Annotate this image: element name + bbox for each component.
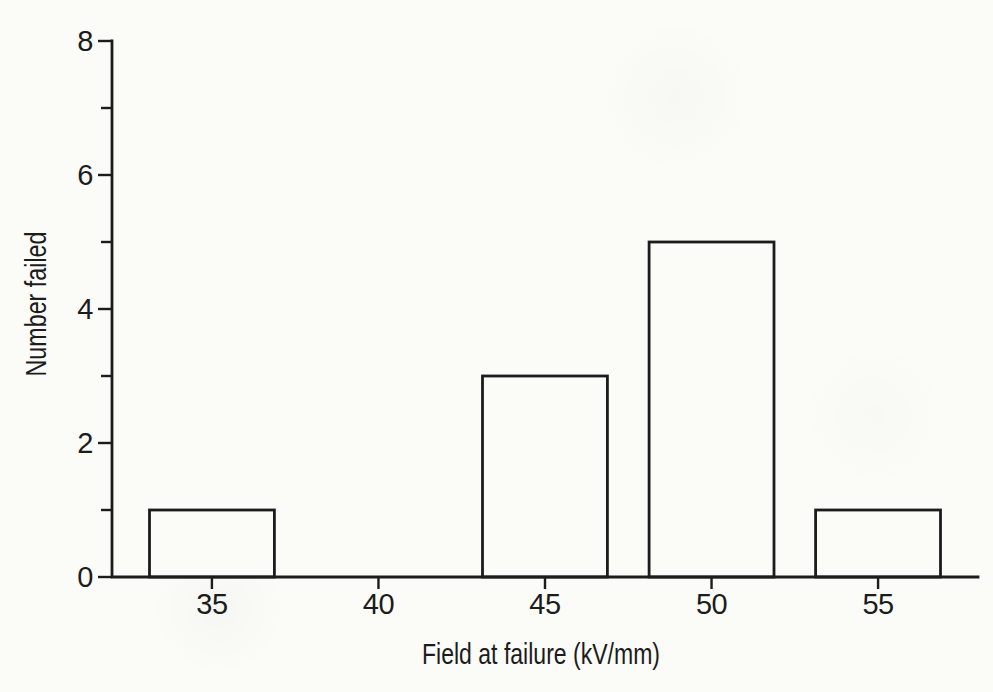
y-tick-label: 4 bbox=[77, 293, 93, 325]
y-tick-label: 2 bbox=[77, 427, 93, 459]
x-tick-label: 50 bbox=[696, 588, 727, 620]
y-tick-label: 0 bbox=[77, 561, 93, 593]
x-tick-label: 40 bbox=[363, 588, 394, 620]
x-tick-label: 55 bbox=[862, 588, 893, 620]
x-tick-label: 35 bbox=[196, 588, 227, 620]
histogram-bar bbox=[483, 376, 608, 577]
y-tick-labels: 02468 bbox=[77, 25, 93, 593]
x-tick-label: 45 bbox=[529, 588, 560, 620]
scanned-figure-page: 3540455055 02468 Field at failure (kV/mm… bbox=[0, 0, 993, 692]
x-axis-label: Field at failure (kV/mm) bbox=[422, 638, 660, 670]
histogram-chart: 3540455055 02468 Field at failure (kV/mm… bbox=[0, 0, 993, 692]
y-axis-label: Number failed bbox=[20, 232, 52, 377]
x-tick-labels: 3540455055 bbox=[196, 588, 893, 620]
histogram-bar bbox=[649, 242, 774, 577]
y-tick-label: 6 bbox=[77, 159, 93, 191]
histogram-bar bbox=[816, 510, 941, 577]
y-tick-label: 8 bbox=[77, 25, 93, 57]
histogram-bar bbox=[150, 510, 275, 577]
bars-layer bbox=[150, 242, 941, 577]
